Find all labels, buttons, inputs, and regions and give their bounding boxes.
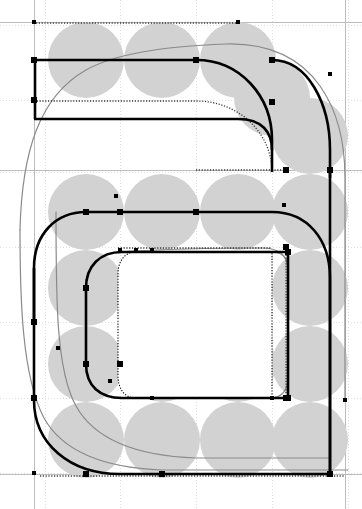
bezier-off-curve-handle[interactable] <box>236 20 240 24</box>
bezier-on-curve-node[interactable] <box>83 471 89 477</box>
dotted-upper-arm <box>34 101 272 172</box>
bezier-off-curve-handle[interactable] <box>114 194 118 198</box>
glyph-editor-canvas[interactable] <box>0 0 362 509</box>
pen-nib-circles <box>48 22 348 478</box>
bezier-on-curve-node[interactable] <box>83 361 89 367</box>
bezier-off-curve-handle[interactable] <box>343 398 347 402</box>
bezier-on-curve-node[interactable] <box>283 167 289 173</box>
bezier-off-curve-handle[interactable] <box>150 248 154 252</box>
bezier-on-curve-node[interactable] <box>327 167 333 173</box>
bezier-off-curve-handle[interactable] <box>56 346 60 350</box>
bezier-off-curve-handle[interactable] <box>328 72 332 76</box>
bezier-off-curve-handle[interactable] <box>150 396 154 400</box>
bezier-on-curve-node[interactable] <box>83 209 89 215</box>
bezier-off-curve-handle[interactable] <box>108 379 112 383</box>
pen-nib-circle <box>272 250 348 326</box>
bezier-off-curve-handle[interactable] <box>32 471 36 475</box>
bezier-on-curve-node[interactable] <box>117 209 123 215</box>
bezier-on-curve-node[interactable] <box>117 361 123 367</box>
bezier-off-curve-handle[interactable] <box>32 20 36 24</box>
pen-nib-circle <box>272 402 348 478</box>
pen-nib-circle <box>272 326 348 402</box>
bezier-off-curve-handle[interactable] <box>282 203 286 207</box>
glyph-vector-surface[interactable] <box>0 0 362 509</box>
bezier-on-curve-node[interactable] <box>193 57 199 63</box>
bezier-off-curve-handle[interactable] <box>270 396 274 400</box>
bezier-off-curve-handle[interactable] <box>118 248 122 252</box>
bezier-on-curve-node[interactable] <box>31 57 37 63</box>
bezier-on-curve-node[interactable] <box>269 99 275 105</box>
bezier-on-curve-node[interactable] <box>285 395 291 401</box>
bezier-off-curve-handle[interactable] <box>134 248 138 252</box>
outline-top-arm-lower[interactable] <box>34 119 272 150</box>
pen-nib-circle <box>200 402 276 478</box>
bezier-on-curve-node[interactable] <box>285 249 291 255</box>
bezier-on-curve-node[interactable] <box>159 471 165 477</box>
bezier-on-curve-node[interactable] <box>327 471 333 477</box>
bezier-on-curve-node[interactable] <box>31 97 37 103</box>
bezier-on-curve-node[interactable] <box>193 209 199 215</box>
bezier-on-curve-node[interactable] <box>83 285 89 291</box>
bezier-on-curve-node[interactable] <box>31 395 37 401</box>
bezier-on-curve-node[interactable] <box>269 57 275 63</box>
pen-nib-circle <box>124 402 200 478</box>
bezier-on-curve-node[interactable] <box>31 319 37 325</box>
counter-white-fill <box>118 252 272 398</box>
